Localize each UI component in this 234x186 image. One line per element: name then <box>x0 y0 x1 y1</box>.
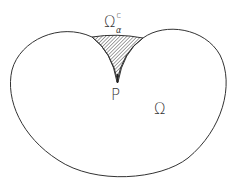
point-label: P <box>111 86 120 104</box>
region-label: Ω <box>154 100 165 118</box>
complement-label-sup: c <box>116 11 120 20</box>
complement-label-base: Ω <box>104 13 115 31</box>
complement-label: Ωcα <box>104 13 125 33</box>
complement-label-sub: α <box>116 26 121 35</box>
